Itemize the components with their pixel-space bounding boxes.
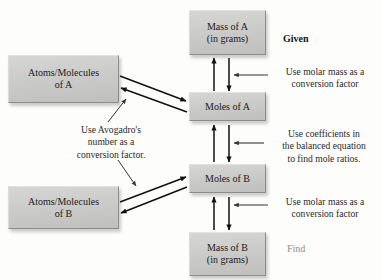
box-atoms-molecules-of-b[interactable]: Atoms/Molecules of B (8, 186, 119, 229)
box-moles-of-a-label: Moles of A (205, 101, 250, 113)
box-moles-of-a[interactable]: Moles of A (189, 92, 266, 121)
annotation-avogadro: Use Avogadro's number as a conversion fa… (58, 124, 164, 161)
box-moles-of-b[interactable]: Moles of B (189, 164, 266, 193)
annotation-coefficients: Use coefficients in the balanced equatio… (266, 128, 382, 165)
arrow-atoms-a-to-moles-a (120, 76, 187, 112)
label-given: Given (283, 33, 309, 44)
annotation-molar-mass-bottom: Use molar mass as a conversion factor (270, 196, 380, 221)
box-atoms-molecules-of-a-label: Atoms/Molecules of A (28, 67, 99, 91)
stoichiometry-diagram: Mass of A (in grams) Atoms/Molecules of … (0, 0, 382, 280)
arrow-atoms-b-to-moles-b (120, 177, 187, 213)
box-mass-of-a[interactable]: Mass of A (in grams) (189, 10, 266, 55)
box-mass-of-b[interactable]: Mass of B (in grams) (189, 232, 266, 276)
leader-avogadro-lower (118, 160, 136, 186)
box-mass-of-b-label: Mass of B (in grams) (207, 242, 248, 266)
box-mass-of-a-label: Mass of A (in grams) (207, 21, 248, 45)
arrow-moles-a-to-moles-b (214, 125, 229, 162)
arrow-moles-b-to-mass-b (214, 197, 229, 230)
box-atoms-molecules-of-b-label: Atoms/Molecules of B (28, 196, 99, 220)
box-atoms-molecules-of-a[interactable]: Atoms/Molecules of A (8, 55, 119, 103)
arrow-mass-a-to-moles-a (214, 58, 229, 91)
annotation-molar-mass-top: Use molar mass as a conversion factor (270, 66, 380, 91)
label-find: Find (287, 243, 305, 254)
box-moles-of-b-label: Moles of B (205, 173, 250, 185)
